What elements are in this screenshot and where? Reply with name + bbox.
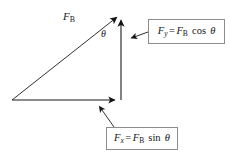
y-component-leader-line xyxy=(132,32,149,38)
angle-theta-label: θ xyxy=(101,28,106,39)
resultant-force-label: FB xyxy=(63,10,75,24)
x-component-leader-line xyxy=(100,107,115,128)
y-component-equation-text: Fy=FB cos θ xyxy=(158,25,216,38)
x-component-equation-box: Fx=FB sin θ xyxy=(106,127,178,150)
x-component-equation-text: Fx=FB sin θ xyxy=(114,132,170,145)
y-component-equation-box: Fy=FB cos θ xyxy=(148,19,225,44)
physics-vector-diagram: FB θ Fy=FB cos θ Fx=FB sin θ xyxy=(0,0,230,157)
